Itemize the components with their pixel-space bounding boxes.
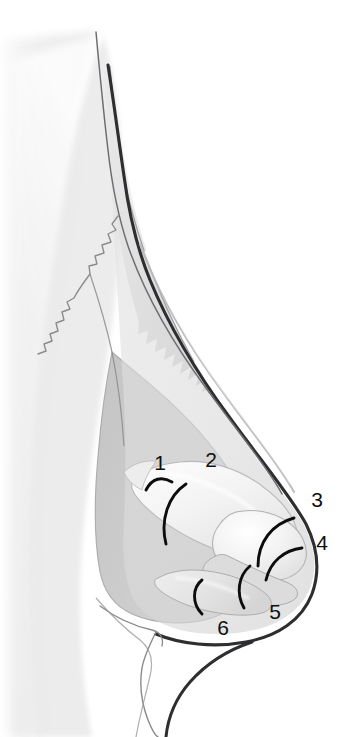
anatomy-figure: 1 2 3 4 5 6 xyxy=(0,0,350,737)
label-1: 1 xyxy=(154,451,166,474)
label-2: 2 xyxy=(205,448,217,471)
label-4: 4 xyxy=(316,531,328,554)
label-5: 5 xyxy=(269,600,281,623)
label-3: 3 xyxy=(311,488,323,511)
nasal-anatomy-illustration: 1 2 3 4 5 6 xyxy=(0,0,350,737)
label-6: 6 xyxy=(217,616,229,639)
